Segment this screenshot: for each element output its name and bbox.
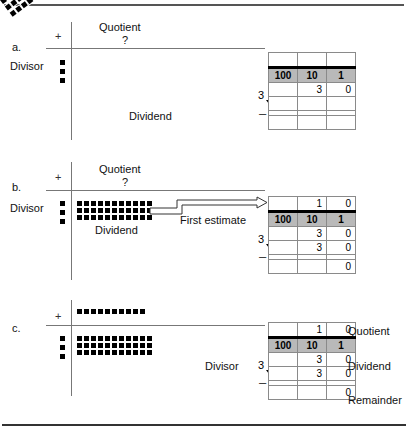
unit-square [119, 215, 124, 220]
unit-square [126, 309, 131, 314]
cell-d-tens: 3 [298, 353, 327, 367]
unit-square [84, 336, 89, 341]
unit-square [147, 343, 152, 348]
unit-square [60, 219, 65, 224]
unit-square [126, 201, 131, 206]
cell-d-ones: 0 [327, 227, 356, 241]
unit-square [91, 309, 96, 314]
panel-b-place-value-table: 1 0 100 10 1 3 0 3 0 0 [268, 196, 356, 274]
unit-square [84, 343, 89, 348]
unit-square [60, 60, 65, 65]
unit-square [133, 343, 138, 348]
panel-c-dividend-row: 3 0 [269, 353, 356, 367]
unit-square [84, 208, 89, 213]
panel-a-quotient-row [269, 53, 356, 68]
cell-pv-ones: 1 [327, 212, 356, 227]
unit-square [60, 201, 65, 206]
cell-q-ones [327, 53, 356, 68]
unit-square [105, 343, 110, 348]
unit-square [140, 343, 145, 348]
panel-b-plus-sign: + [55, 172, 61, 183]
panel-c-subtract-row: 3 0 [269, 367, 356, 381]
cell-d-tens: 3 [298, 83, 327, 97]
unit-square [91, 336, 96, 341]
panel-c-letter: c. [12, 323, 21, 334]
unit-square [119, 350, 124, 355]
panel-b-quotient-value: ? [122, 176, 128, 188]
unit-square [126, 208, 131, 213]
unit-square [105, 350, 110, 355]
unit-square [133, 336, 138, 341]
unit-square [126, 336, 131, 341]
unit-square [77, 343, 82, 348]
unit-square [140, 309, 145, 314]
cell-s-ones [327, 97, 356, 111]
unit-square [112, 350, 117, 355]
cell-s-tens [298, 97, 327, 111]
cell-q-tens [298, 53, 327, 68]
unit-square [133, 309, 138, 314]
cell-pv-tens: 10 [298, 338, 327, 353]
unit-square [126, 350, 131, 355]
panel-c-dividend-row-label: Dividend [348, 360, 391, 372]
cell-r-tens [298, 260, 327, 274]
cell-q-tens: 1 [298, 323, 327, 338]
panel-c-divisor-label: Divisor [205, 360, 239, 372]
unit-square [98, 309, 103, 314]
bottom-rule [2, 424, 406, 426]
cell-s-ones: 0 [327, 241, 356, 255]
unit-square [112, 201, 117, 206]
cell-r-tens [298, 386, 327, 400]
panel-b-dividend-label: Dividend [95, 224, 138, 236]
panel-c-place-value-table: 1 0 100 10 1 3 0 3 0 0 [268, 322, 356, 400]
cell-d-hundreds [269, 353, 298, 367]
unit-square [98, 215, 103, 220]
panel-c-plus-sign: + [55, 311, 61, 322]
unit-square [77, 215, 82, 220]
cell-pv-hundreds: 100 [269, 338, 298, 353]
panel-b-letter: b. [12, 182, 21, 193]
panel-b-minus-sign: – [259, 250, 266, 263]
cell-d-hundreds [269, 227, 298, 241]
panel-b-remainder-row: 0 [269, 260, 356, 274]
unit-square [119, 343, 124, 348]
division-diagram-figure: a. + Quotient ? Divisor Dividend 3 – 100… [0, 0, 411, 435]
cell-s-hundreds [269, 241, 298, 255]
unit-square [15, 6, 22, 13]
cell-q-hundreds [269, 53, 298, 68]
cell-pv-ones: 1 [327, 338, 356, 353]
unit-square [84, 215, 89, 220]
panel-b-divisor-digit: 3 [258, 234, 264, 245]
unit-square [98, 343, 103, 348]
panel-a-subtract-row [269, 97, 356, 111]
panel-a-axis-vertical [71, 22, 72, 140]
unit-square [77, 201, 82, 206]
cell-d-tens: 3 [298, 227, 327, 241]
unit-square [91, 201, 96, 206]
unit-square [91, 343, 96, 348]
panel-a-remainder-row [269, 116, 356, 130]
panel-a-place-value-row: 100 10 1 [269, 68, 356, 83]
unit-square [91, 350, 96, 355]
unit-square [119, 208, 124, 213]
panel-a-divisor-label: Divisor [10, 60, 44, 72]
panel-b-place-value-row: 100 10 1 [269, 212, 356, 227]
top-rule [4, 4, 404, 6]
unit-square [60, 336, 65, 341]
panel-b-subtract-row: 3 0 [269, 241, 356, 255]
panel-b-divisor-label: Divisor [10, 202, 44, 214]
unit-square [91, 208, 96, 213]
panel-a-place-value-table: 100 10 1 3 0 [268, 52, 356, 130]
panel-b-dividend-row: 3 0 [269, 227, 356, 241]
unit-square [60, 345, 65, 350]
unit-square [77, 336, 82, 341]
unit-square [77, 350, 82, 355]
cell-q-ones: 0 [327, 197, 356, 212]
unit-square [112, 336, 117, 341]
cell-q-hundreds [269, 197, 298, 212]
panel-b-quotient-label: Quotient [99, 163, 141, 175]
panel-c-place-value-row: 100 10 1 [269, 338, 356, 353]
panel-b-quotient-row: 1 0 [269, 197, 356, 212]
cell-pv-tens: 10 [298, 68, 327, 83]
unit-square [16, 0, 23, 2]
